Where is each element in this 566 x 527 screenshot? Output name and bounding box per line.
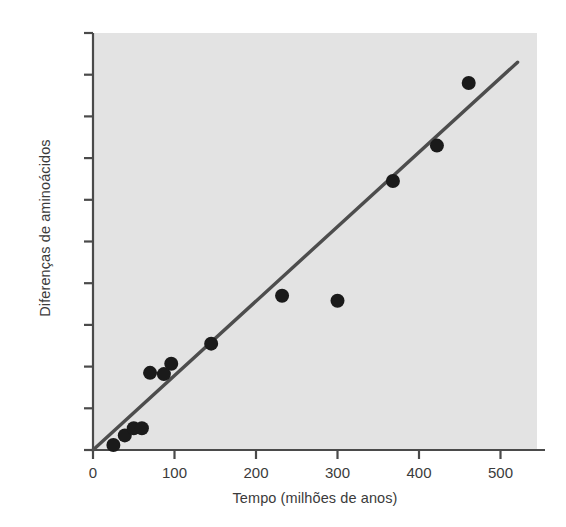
x-tick-label: 300 xyxy=(308,464,368,481)
scatter-plot-figure: 0,00,10,20,30,40,50,60,70,80,91,0 010020… xyxy=(0,0,566,527)
x-tick-label: 200 xyxy=(226,464,286,481)
x-tick-label: 500 xyxy=(471,464,531,481)
y-axis-title: Diferenças de aminoácidos xyxy=(37,88,53,368)
x-tick-label: 400 xyxy=(389,464,449,481)
x-axis-tick-labels: 0100200300400500 xyxy=(0,0,566,527)
x-tick-label: 0 xyxy=(63,464,123,481)
x-tick-label: 100 xyxy=(145,464,205,481)
x-axis-title: Tempo (milhões de anos) xyxy=(93,490,537,506)
